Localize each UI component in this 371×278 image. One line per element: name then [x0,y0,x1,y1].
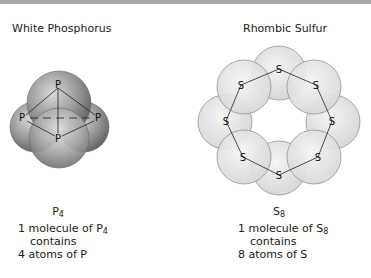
s8-caption: 1 molecule of S8 contains 8 atoms of S [238,222,328,261]
p4-caption-line2: contains [18,235,108,248]
atom-label-s: S [329,116,335,127]
p4-formula: P4 [38,205,78,218]
atom-label-p: P [95,112,101,123]
atom-label-s: S [240,152,246,163]
s8-formula: S8 [259,205,299,218]
s8-caption-line1: 1 molecule of S8 [238,222,328,235]
s8-caption-line3: 8 atoms of S [238,248,328,261]
atom-label-s: S [238,80,244,91]
atom-label-s: S [223,116,229,127]
phosphorus-p4-model: P P P P [10,71,109,168]
p4-caption-line3: 4 atoms of P [18,248,108,261]
atom-label-s: S [276,64,282,75]
sulfur-s8-model: S S S S S S S S [198,46,360,195]
atom-label-p: P [55,79,61,90]
p4-caption-line1: 1 molecule of P4 [18,222,108,235]
atom-label-p: P [19,112,25,123]
atom-label-p: P [55,133,61,144]
atom-label-s: S [276,170,282,181]
atom-label-s: S [315,152,321,163]
s8-caption-line2: contains [238,235,328,248]
atom-label-s: S [313,80,319,91]
p4-caption: 1 molecule of P4 contains 4 atoms of P [18,222,108,261]
